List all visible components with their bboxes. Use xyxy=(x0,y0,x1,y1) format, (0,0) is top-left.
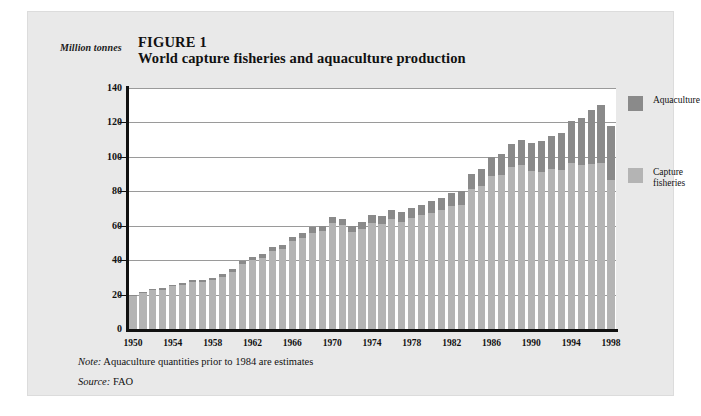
bar-1993 xyxy=(558,133,565,329)
bar-segment-capture-fisheries xyxy=(448,206,455,329)
bar-segment-capture-fisheries xyxy=(548,169,555,329)
legend-item-aquaculture: Aquaculture xyxy=(628,96,701,122)
y-axis-tick-mark xyxy=(119,122,126,123)
bar-segment-capture-fisheries xyxy=(607,180,614,329)
bar-1966 xyxy=(289,237,296,329)
y-axis-tick-label: 20 xyxy=(62,289,122,300)
figure-title: World capture fisheries and aquaculture … xyxy=(138,50,466,67)
bar-segment-capture-fisheries xyxy=(239,264,246,329)
y-axis-unit-label: Million tonnes xyxy=(60,42,122,53)
x-axis-tick-label: 1970 xyxy=(312,338,352,348)
bar-segment-capture-fisheries xyxy=(179,285,186,329)
plot-area xyxy=(128,88,616,329)
y-axis-tick-label: 80 xyxy=(62,185,122,196)
bar-segment-capture-fisheries xyxy=(588,164,595,329)
bar-segment-aquaculture xyxy=(498,154,505,175)
bar-1953 xyxy=(159,288,166,329)
bar-segment-aquaculture xyxy=(378,216,385,224)
x-axis-tick-label: 1986 xyxy=(472,338,512,348)
bar-segment-capture-fisheries xyxy=(229,272,236,329)
figure-panel: Million tonnes FIGURE 1 World capture fi… xyxy=(28,12,673,395)
bar-segment-capture-fisheries xyxy=(478,186,485,329)
bar-segment-capture-fisheries xyxy=(319,231,326,329)
bar-segment-capture-fisheries xyxy=(518,165,525,329)
bar-1992 xyxy=(548,136,555,329)
bar-segment-aquaculture xyxy=(398,212,405,221)
bar-segment-aquaculture xyxy=(438,198,445,210)
x-axis-tick-label: 1958 xyxy=(193,338,233,348)
bar-segment-aquaculture xyxy=(538,141,545,171)
bar-segment-capture-fisheries xyxy=(169,286,176,329)
legend-label-capture-fisheries: Capture fisheries xyxy=(653,167,685,189)
bar-1974 xyxy=(368,215,375,329)
bar-1984 xyxy=(468,174,475,329)
bar-segment-capture-fisheries xyxy=(438,210,445,329)
y-axis-tick-label: 120 xyxy=(62,116,122,127)
bar-segment-aquaculture xyxy=(528,143,535,171)
bar-segment-capture-fisheries xyxy=(597,163,604,329)
bar-segment-capture-fisheries xyxy=(348,232,355,329)
bar-segment-capture-fisheries xyxy=(558,170,565,329)
y-axis-tick-label: 100 xyxy=(62,151,122,162)
bar-segment-capture-fisheries xyxy=(538,172,545,329)
x-axis-tick-label: 1974 xyxy=(352,338,392,348)
bar-segment-capture-fisheries xyxy=(289,241,296,329)
bar-segment-capture-fisheries xyxy=(189,282,196,329)
bar-1957 xyxy=(199,280,206,329)
bar-segment-capture-fisheries xyxy=(139,293,146,329)
bar-segment-capture-fisheries xyxy=(269,251,276,329)
x-axis-tick-label: 1982 xyxy=(432,338,472,348)
bar-1975 xyxy=(378,216,385,329)
bar-1995 xyxy=(578,118,585,329)
bar-1969 xyxy=(319,226,326,329)
bar-segment-capture-fisheries xyxy=(279,249,286,329)
x-axis-tick-label: 1962 xyxy=(232,338,272,348)
bar-segment-aquaculture xyxy=(548,136,555,169)
y-axis-tick-label: 140 xyxy=(62,82,122,93)
bar-1962 xyxy=(249,257,256,329)
figure-note: Note: Aquaculture quantities prior to 19… xyxy=(78,356,313,367)
bar-segment-capture-fisheries xyxy=(398,222,405,329)
bar-segment-capture-fisheries xyxy=(209,280,216,329)
y-axis-tick-mark xyxy=(119,260,126,261)
bar-segment-aquaculture xyxy=(558,133,565,170)
y-axis-tick-mark xyxy=(119,226,126,227)
bar-segment-aquaculture xyxy=(478,169,485,186)
bar-segment-aquaculture xyxy=(468,174,475,189)
bar-1979 xyxy=(418,205,425,329)
x-axis-tick-label: 1994 xyxy=(551,338,591,348)
figure-heading: FIGURE 1 World capture fisheries and aqu… xyxy=(138,34,466,67)
bar-segment-aquaculture xyxy=(568,121,575,163)
bar-segment-capture-fisheries xyxy=(199,282,206,329)
bar-1994 xyxy=(568,121,575,329)
bar-segment-capture-fisheries xyxy=(498,175,505,329)
bar-1963 xyxy=(259,254,266,329)
bar-1967 xyxy=(299,233,306,329)
bar-1960 xyxy=(229,269,236,329)
bar-segment-capture-fisheries xyxy=(259,258,266,329)
bar-segment-capture-fisheries xyxy=(299,238,306,329)
bar-segment-aquaculture xyxy=(518,140,525,165)
legend-swatch-aquaculture xyxy=(628,96,643,111)
x-axis-tick-label: 1978 xyxy=(392,338,432,348)
bar-segment-aquaculture xyxy=(428,201,435,213)
bar-1970 xyxy=(329,217,336,329)
bar-1982 xyxy=(448,193,455,329)
legend-swatch-capture-fisheries xyxy=(628,168,643,183)
bar-1972 xyxy=(348,226,355,329)
bar-segment-aquaculture xyxy=(607,126,614,180)
y-axis-tick-mark xyxy=(119,191,126,192)
bar-1952 xyxy=(149,289,156,329)
bar-segment-capture-fisheries xyxy=(408,218,415,329)
bar-1990 xyxy=(528,143,535,329)
bar-segment-aquaculture xyxy=(448,193,455,206)
x-axis-tick-label: 1950 xyxy=(113,338,153,348)
figure-source-prefix: Source: xyxy=(78,376,110,387)
bar-1968 xyxy=(309,227,316,329)
bar-1976 xyxy=(388,210,395,329)
y-axis-tick-label: 40 xyxy=(62,254,122,265)
x-axis-tick-label: 1990 xyxy=(511,338,551,348)
bar-segment-aquaculture xyxy=(588,110,595,164)
figure-source-text: FAO xyxy=(110,376,133,387)
bar-segment-capture-fisheries xyxy=(418,215,425,329)
